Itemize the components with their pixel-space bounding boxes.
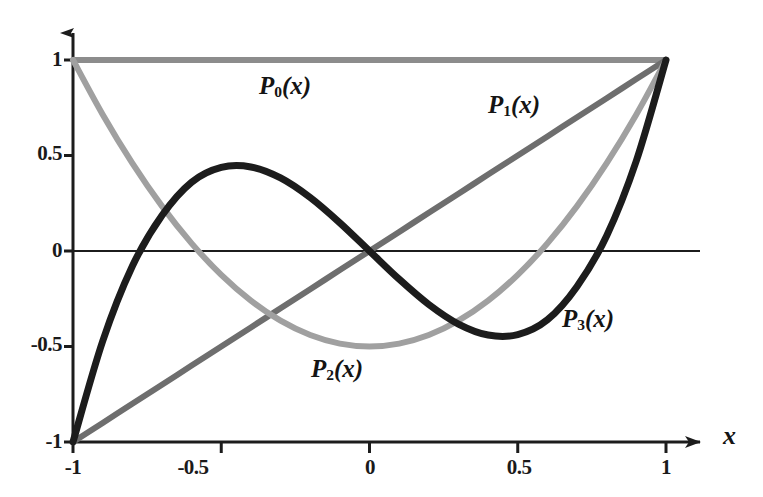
curve-label-p2: P2(x) [311,355,363,384]
plot-canvas [0,0,763,497]
curve-label-p3: P3(x) [562,305,614,334]
x-tick-label-neg0_5: -0.5 [163,455,223,480]
curve-p2 [73,60,666,347]
curve-label-p1-arg: (x) [511,91,540,118]
curve-label-p1-sub: 1 [503,102,511,119]
curve-label-p0-base: P [259,72,274,99]
y-tick-label-neg0_5: -0.5 [0,332,62,357]
legendre-polynomials-figure: 1 0.5 0 -0.5 -1 -1 -0.5 0 0.5 1 x P0(x) … [0,0,763,497]
curve-label-p3-base: P [562,305,577,332]
y-tick-label-neg1: -1 [14,429,62,454]
x-tick-label-0_5: 0.5 [489,455,549,480]
curve-label-p0-arg: (x) [282,72,311,99]
y-tick-label-1: 1 [24,47,62,72]
curve-label-p3-arg: (x) [585,305,614,332]
curve-label-p0: P0(x) [259,72,311,101]
x-tick-label-1: 1 [636,455,696,480]
curve-label-p2-arg: (x) [334,355,363,382]
curve-label-p3-sub: 3 [577,316,585,333]
x-tick-label-0: 0 [340,455,400,480]
y-tick-label-0_5: 0.5 [2,141,62,166]
y-tick-label-0: 0 [24,238,62,263]
curve-label-p0-sub: 0 [274,83,282,100]
curve-label-p2-sub: 2 [326,366,334,383]
curve-label-p2-base: P [311,355,326,382]
x-axis-name: x [723,421,736,451]
curve-label-p1-base: P [488,91,503,118]
x-tick-label-neg1: -1 [43,455,103,480]
curve-label-p1: P1(x) [488,91,540,120]
